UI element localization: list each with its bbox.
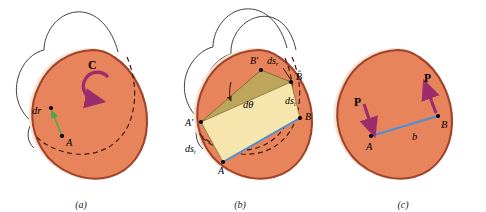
deformed-body-shape bbox=[337, 50, 452, 179]
rotation-label-c: C bbox=[88, 58, 97, 72]
point-b-label: B bbox=[441, 119, 448, 130]
panel-c: P P A b B (c) bbox=[320, 0, 486, 212]
traction-label-left: P bbox=[354, 96, 361, 108]
point-b bbox=[298, 116, 302, 120]
dr-label: dr bbox=[32, 105, 42, 116]
traction-label-right: P bbox=[424, 72, 431, 84]
panel-b: B′ dsr B̂ dθ dst B A′ dst A (b) bbox=[155, 0, 325, 212]
caption-c: (c) bbox=[320, 199, 486, 210]
point-a-label: A bbox=[365, 141, 373, 152]
point-a-label: A bbox=[217, 165, 225, 176]
point-b-prime-label: B′ bbox=[250, 55, 259, 66]
dtheta-label: dθ bbox=[243, 99, 253, 110]
point-a-prime bbox=[199, 120, 203, 124]
point-a bbox=[369, 134, 373, 138]
caption-a: (a) bbox=[0, 199, 162, 210]
dst-left-label: dst bbox=[185, 143, 196, 155]
point-b-hat-label: B̂ bbox=[296, 70, 302, 82]
point-a bbox=[60, 134, 64, 138]
point-a bbox=[221, 160, 225, 164]
point-a-prime-label: A′ bbox=[184, 117, 194, 128]
point-b-prime bbox=[259, 68, 263, 72]
point-b-label: B bbox=[305, 111, 311, 122]
point-b bbox=[436, 114, 440, 118]
caption-b: (b) bbox=[155, 199, 325, 210]
segment-b-label: b bbox=[412, 131, 417, 142]
panel-a: C dr A (a) bbox=[0, 0, 162, 212]
point-b-hat bbox=[289, 80, 293, 84]
point-dr-tip bbox=[49, 106, 53, 110]
figure-container: C dr A (a) bbox=[0, 0, 486, 212]
point-a-label: A bbox=[65, 137, 73, 148]
